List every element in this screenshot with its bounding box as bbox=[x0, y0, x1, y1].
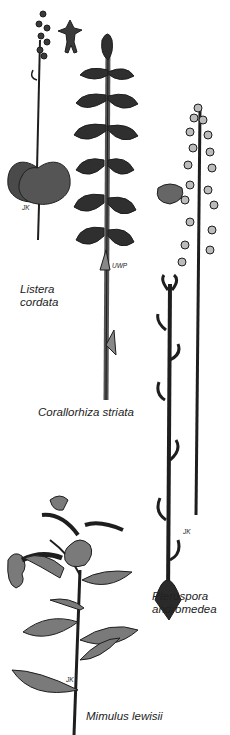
listera-genus: Listera bbox=[20, 283, 58, 296]
mimulus-lewisii-label: Mimulus lewisii bbox=[86, 710, 163, 723]
listera-cordata-label: Listera cordata bbox=[20, 283, 58, 309]
listera-signature: JK bbox=[22, 204, 30, 211]
mimulus-lewisii-drawing bbox=[8, 496, 138, 735]
corallorhiza-signature: UWP bbox=[112, 262, 127, 269]
pterospora-andromedea-drawing bbox=[155, 104, 218, 620]
botanical-illustration bbox=[0, 0, 230, 735]
pterospora-genus: Pterospora bbox=[152, 590, 217, 603]
pterospora-signature: JK bbox=[183, 528, 191, 535]
pterospora-species: andromedea bbox=[152, 603, 217, 616]
listera-species: cordata bbox=[20, 296, 58, 309]
mimulus-signature: JK bbox=[66, 676, 74, 683]
corallorhiza-striata-drawing bbox=[74, 34, 138, 400]
listera-cordata-drawing bbox=[8, 11, 82, 240]
corallorhiza-striata-label: Corallorhiza striata bbox=[38, 406, 134, 419]
pterospora-andromedea-label: Pterospora andromedea bbox=[152, 590, 217, 616]
